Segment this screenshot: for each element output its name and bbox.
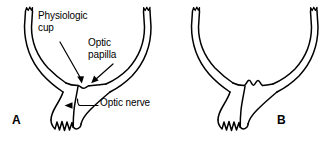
panel-a-right-wall-cut	[144, 7, 151, 11]
panel-letter-a: A	[12, 113, 21, 127]
panel-a-nerve-left-boundary	[51, 92, 63, 120]
optic-nerve-arrowhead	[65, 102, 73, 109]
panel-a-retina-right	[89, 84, 106, 86]
optic-papilla-arrowhead	[91, 76, 98, 84]
panel-b-nerve-left-boundary	[218, 92, 230, 120]
panel-b-left-wall-cut	[193, 7, 200, 12]
panel-a-nerve-lower-right	[73, 124, 81, 129]
panel-b-retina-right	[263, 84, 274, 85]
panel-b-nerve-lower-right	[240, 124, 248, 129]
panel-a-nerve-sheath-left	[73, 87, 78, 128]
optic-papilla-leader	[96, 64, 114, 80]
figure-container: Physiologic cup Optic papilla Optic nerv…	[0, 0, 334, 141]
panel-b-right-wall-cut	[311, 7, 318, 11]
label-optic-papilla: Optic papilla	[88, 37, 116, 60]
panel-letter-b: B	[277, 113, 286, 127]
panel-a-left-wall-cut	[26, 7, 33, 12]
panel-b-nerve-right-boundary	[248, 92, 277, 124]
panel-b-nerve-sheath-left	[240, 87, 245, 128]
panel-b-retina-left	[233, 83, 244, 86]
panel-b-drawing	[192, 7, 319, 131]
panel-a-retina-left	[66, 83, 78, 86]
panel-b-right-wall-inner	[273, 12, 312, 85]
panel-b-nerve-frayed-end	[218, 120, 240, 131]
physiologic-cup-leader	[60, 42, 81, 78]
panel-a-physiologic-cup	[78, 86, 89, 89]
physiologic-cup-arrowhead	[77, 76, 84, 83]
label-optic-nerve: Optic nerve	[100, 97, 150, 109]
panel-b-left-wall-outer	[192, 11, 231, 92]
panel-b-excavated-cup	[244, 80, 263, 85]
label-physiologic-cup: Physiologic cup	[38, 10, 87, 33]
panel-a-nerve-frayed-end	[51, 120, 73, 131]
panel-b-left-wall-inner	[199, 12, 234, 84]
